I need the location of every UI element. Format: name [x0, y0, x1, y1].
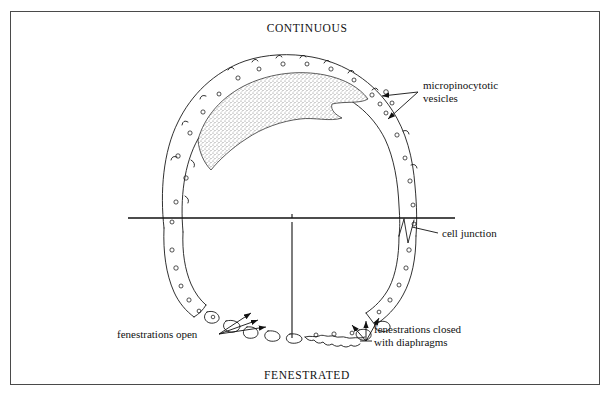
- cell-junction-notch: [399, 219, 414, 243]
- label-continuous: CONTINUOUS: [267, 22, 348, 34]
- label-cell-junction: cell junction: [442, 227, 497, 239]
- endothelial-nucleus: [198, 73, 368, 170]
- label-fenestrations-closed-line2: with diaphragms: [374, 336, 448, 348]
- capillary-diagram: CONTINUOUS FENESTRATED micropinocytotic …: [0, 0, 614, 403]
- label-fenestrations-open: fenestrations open: [117, 328, 198, 340]
- micropinocytotic-leader: [382, 92, 418, 119]
- figure-root: CONTINUOUS FENESTRATED micropinocytotic …: [0, 0, 614, 403]
- lower-left-wall: [164, 228, 302, 343]
- label-micropinocytotic-line2: vesicles: [423, 92, 458, 104]
- label-fenestrated: FENESTRATED: [264, 369, 350, 381]
- label-micropinocytotic-line1: micropinocytotic: [423, 79, 498, 91]
- label-fenestrations-closed-line1: fenestrations closed: [374, 323, 462, 335]
